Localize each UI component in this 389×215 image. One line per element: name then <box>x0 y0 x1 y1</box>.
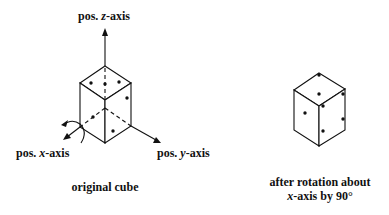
rotated-caption-line1: after rotation about <box>255 175 385 189</box>
y-axis <box>131 126 156 140</box>
rotated-left-face-pips <box>303 111 306 114</box>
y-arrowhead-icon <box>153 137 161 143</box>
z-axis-label: pos. z-axis <box>78 9 130 23</box>
x-axis-label: pos. x-axis <box>16 146 69 160</box>
original-cube-caption: original cube <box>50 180 160 194</box>
y-axis-label: pos. y-axis <box>157 146 210 160</box>
rotated-cube <box>294 73 345 146</box>
rotation-arrowhead-icon <box>61 120 68 127</box>
original-left-face-pips <box>91 115 94 118</box>
x-arrowhead-icon <box>63 133 71 140</box>
z-arrowhead-icon <box>102 28 108 36</box>
rotated-cube-caption: after rotation about x-axis by 90° <box>255 175 385 203</box>
rotated-caption-line2: x-axis by 90° <box>255 189 385 203</box>
